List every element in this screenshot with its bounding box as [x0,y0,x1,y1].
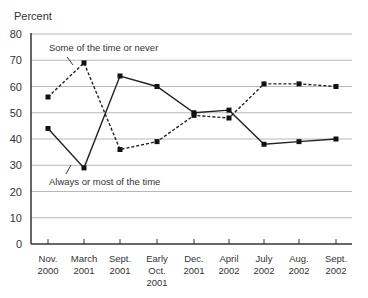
annotation-always-or-most: Always or most of the time [49,176,160,187]
x-axis-ticks: Nov.2000March2001Sept.2001EarlyOct.2001D… [37,239,347,288]
series-line-1 [48,76,336,168]
series-line-0 [48,63,336,150]
x-tick-label: 2002 [218,265,239,276]
y-axis-label: Percent [14,10,52,22]
data-marker [227,116,232,121]
data-marker [46,95,51,100]
series-lines [46,60,339,170]
y-tick-label: 50 [10,107,22,119]
data-marker [82,60,87,65]
x-tick-label: Aug. [289,253,309,264]
y-tick-label: 20 [10,186,22,198]
data-marker [82,165,87,170]
line-chart: Percent 01020304050607080 Nov.2000March2… [0,0,368,298]
x-tick-label: April [219,253,238,264]
y-tick-label: 10 [10,212,22,224]
x-tick-label: 2000 [37,265,58,276]
x-tick-label: Sept. [109,253,131,264]
data-marker [262,142,267,147]
data-marker [297,81,302,86]
y-tick-label: 0 [16,238,22,250]
data-marker [334,84,339,89]
data-marker [192,110,197,115]
annotation-leader [66,165,71,174]
x-tick-label: 2002 [253,265,274,276]
annotation-some-or-never: Some of the time or never [49,42,158,53]
data-marker [227,108,232,113]
x-tick-label: March [71,253,97,264]
x-tick-label: 2001 [183,265,204,276]
annotation-leader [67,57,73,65]
data-marker [155,139,160,144]
gridlines [31,34,352,218]
data-marker [46,126,51,131]
data-marker [297,139,302,144]
y-tick-label: 40 [10,133,22,145]
x-tick-label: Oct. [148,265,165,276]
y-tick-label: 60 [10,81,22,93]
data-marker [118,74,123,79]
data-marker [155,84,160,89]
data-marker [262,81,267,86]
y-tick-label: 30 [10,159,22,171]
x-tick-label: 2002 [325,265,346,276]
x-tick-label: Dec. [184,253,204,264]
x-tick-label: 2001 [109,265,130,276]
x-tick-label: July [256,253,273,264]
y-axis-ticks: 01020304050607080 [10,28,22,250]
data-marker [334,137,339,142]
x-tick-label: 2001 [146,277,167,288]
x-tick-label: Early [146,253,168,264]
x-tick-label: Sept. [325,253,347,264]
x-tick-label: 2001 [73,265,94,276]
x-tick-label: 2002 [288,265,309,276]
x-tick-label: Nov. [39,253,58,264]
data-marker [118,147,123,152]
y-tick-label: 70 [10,54,22,66]
y-tick-label: 80 [10,28,22,40]
